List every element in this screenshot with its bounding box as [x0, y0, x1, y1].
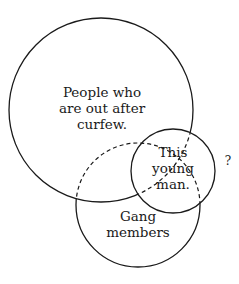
young-man-label: This young man. [148, 144, 198, 192]
question-mark-annotation: ? [222, 153, 234, 169]
gang-members-label: Gang members [98, 208, 178, 240]
curfew-label: People who are out after curfew. [52, 84, 152, 132]
venn-diagram [0, 0, 239, 284]
